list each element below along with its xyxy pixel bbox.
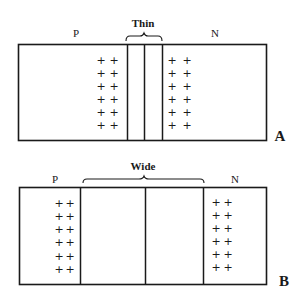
- svg-text:+: +: [65, 210, 74, 223]
- svg-text:+: +: [182, 93, 191, 106]
- panel-a-n-label: N: [211, 27, 219, 39]
- panel-a-width-brace: [126, 33, 162, 41]
- svg-text:+: +: [182, 54, 191, 67]
- svg-text:+: +: [96, 54, 105, 67]
- svg-text:+: +: [54, 197, 63, 210]
- svg-text:+: +: [223, 248, 232, 261]
- svg-text:+: +: [211, 248, 220, 261]
- panel-a-frame: [19, 45, 267, 141]
- pn-junction-diagram: P N Thin + + + + + + + + + + + + + + + +…: [0, 0, 307, 301]
- svg-text:+: +: [182, 80, 191, 93]
- panel-b-n-label: N: [231, 173, 239, 185]
- svg-text:+: +: [54, 236, 63, 249]
- svg-text:+: +: [182, 119, 191, 132]
- svg-text:+: +: [167, 80, 176, 93]
- svg-text:+: +: [65, 250, 74, 263]
- panel-a-depletion-label: Thin: [132, 17, 155, 29]
- svg-text:+: +: [65, 236, 74, 249]
- panel-a-p-label: P: [73, 27, 79, 39]
- svg-text:+: +: [65, 263, 74, 276]
- panel-a-label: A: [275, 128, 286, 144]
- svg-text:+: +: [65, 197, 74, 210]
- panel-a-right-charges: + + + + + + + + + + + +: [167, 54, 191, 132]
- svg-text:+: +: [211, 235, 220, 248]
- svg-text:+: +: [167, 54, 176, 67]
- svg-text:+: +: [54, 263, 63, 276]
- svg-text:+: +: [223, 222, 232, 235]
- svg-text:+: +: [167, 67, 176, 80]
- svg-text:+: +: [167, 106, 176, 119]
- svg-text:+: +: [109, 106, 118, 119]
- svg-text:+: +: [65, 223, 74, 236]
- panel-b-label: B: [279, 273, 289, 289]
- svg-text:+: +: [182, 106, 191, 119]
- svg-text:+: +: [223, 196, 232, 209]
- panel-a: P N Thin + + + + + + + + + + + + + + + +…: [19, 17, 286, 144]
- svg-text:+: +: [182, 67, 191, 80]
- svg-text:+: +: [54, 210, 63, 223]
- svg-text:+: +: [167, 93, 176, 106]
- svg-text:+: +: [109, 67, 118, 80]
- panel-b-depletion-label: Wide: [131, 160, 156, 172]
- svg-text:+: +: [109, 119, 118, 132]
- svg-text:+: +: [211, 209, 220, 222]
- svg-text:+: +: [109, 54, 118, 67]
- svg-text:+: +: [96, 67, 105, 80]
- svg-text:+: +: [54, 223, 63, 236]
- svg-text:+: +: [109, 93, 118, 106]
- svg-text:+: +: [223, 209, 232, 222]
- panel-a-left-charges: + + + + + + + + + + + +: [96, 54, 118, 132]
- svg-text:+: +: [211, 196, 220, 209]
- svg-text:+: +: [96, 119, 105, 132]
- svg-text:+: +: [96, 106, 105, 119]
- svg-text:+: +: [54, 250, 63, 263]
- panel-b-left-charges: + + + + + + + + + + + +: [54, 197, 74, 276]
- panel-b: P N Wide + + + + + + + + + + + + + + + +…: [20, 160, 290, 289]
- svg-text:+: +: [223, 261, 232, 274]
- svg-text:+: +: [109, 80, 118, 93]
- panel-b-right-charges: + + + + + + + + + + + +: [211, 196, 232, 274]
- svg-text:+: +: [167, 119, 176, 132]
- svg-text:+: +: [223, 235, 232, 248]
- svg-text:+: +: [211, 261, 220, 274]
- svg-text:+: +: [96, 93, 105, 106]
- panel-b-width-brace: [83, 176, 204, 183]
- svg-text:+: +: [96, 80, 105, 93]
- svg-text:+: +: [211, 222, 220, 235]
- panel-b-p-label: P: [52, 173, 58, 185]
